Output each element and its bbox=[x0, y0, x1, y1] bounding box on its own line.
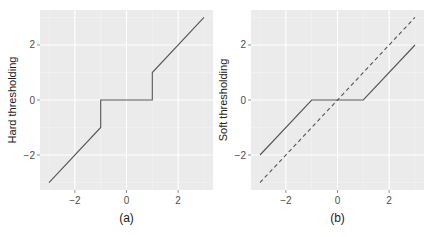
panel-caption: (b) bbox=[330, 211, 345, 225]
y-tick-label: −2 bbox=[235, 150, 247, 161]
y-axis-label: Soft thresholding bbox=[217, 59, 229, 142]
y-tick-label: 0 bbox=[29, 95, 35, 106]
x-tick-label: 0 bbox=[335, 195, 341, 206]
figure: −202−202Hard thresholding(a)−202−202Soft… bbox=[0, 0, 434, 237]
y-tick-label: 2 bbox=[29, 39, 35, 50]
x-tick-label: 0 bbox=[124, 195, 130, 206]
y-axis-label: Hard thresholding bbox=[6, 57, 18, 144]
panel-caption: (a) bbox=[119, 211, 134, 225]
y-tick-label: 0 bbox=[240, 95, 246, 106]
chart-panel-a: −202−202Hard thresholding(a) bbox=[6, 10, 213, 225]
x-tick-label: −2 bbox=[280, 195, 292, 206]
y-tick-label: 2 bbox=[240, 39, 246, 50]
x-tick-label: 2 bbox=[386, 195, 392, 206]
chart-panel-b: −202−202Soft thresholding(b) bbox=[217, 10, 424, 225]
x-tick-label: 2 bbox=[175, 195, 181, 206]
y-tick-label: −2 bbox=[24, 150, 36, 161]
x-tick-label: −2 bbox=[69, 195, 81, 206]
